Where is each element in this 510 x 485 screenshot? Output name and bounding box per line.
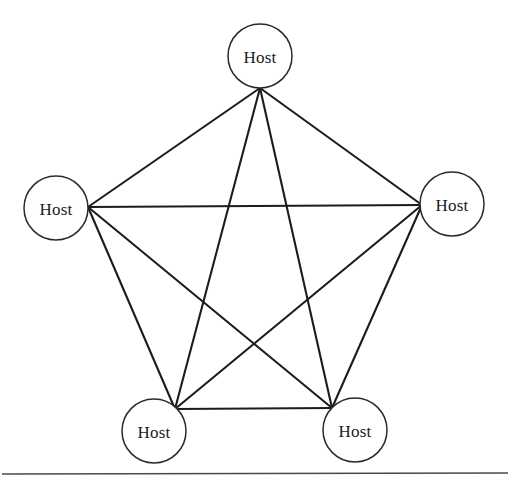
node-label-top: Host — [244, 48, 277, 67]
edge-left-to-right — [88, 205, 422, 207]
edge-top-to-right — [260, 88, 422, 205]
edge-left-to-bottom-right — [88, 207, 332, 408]
node-label-bottom-left: Host — [138, 423, 171, 442]
edge-right-to-bottom-left — [175, 205, 422, 409]
edge-top-to-bottom-left — [175, 88, 260, 409]
node-layer: HostHostHostHostHost — [24, 24, 484, 463]
edge-bottom-left-to-bottom-right — [175, 408, 332, 409]
footer-rule-layer — [2, 473, 508, 474]
footer-divider-rule — [2, 473, 508, 474]
node-left[interactable]: Host — [24, 176, 88, 240]
node-right[interactable]: Host — [420, 172, 484, 236]
edge-layer — [88, 88, 422, 409]
diagram-canvas: HostHostHostHostHost — [0, 0, 510, 485]
node-label-left: Host — [40, 200, 73, 219]
edge-left-to-bottom-left — [88, 207, 175, 409]
node-bottom-left[interactable]: Host — [122, 399, 186, 463]
edge-top-to-bottom-right — [260, 88, 332, 408]
mesh-network-graph: HostHostHostHostHost — [0, 0, 510, 485]
node-label-right: Host — [436, 196, 469, 215]
edge-right-to-bottom-right — [332, 205, 422, 408]
node-label-bottom-right: Host — [339, 422, 372, 441]
node-bottom-right[interactable]: Host — [323, 398, 387, 462]
node-top[interactable]: Host — [228, 24, 292, 88]
